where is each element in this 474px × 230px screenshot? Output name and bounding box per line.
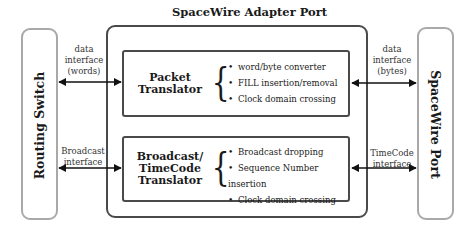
connection-arrows: [0, 0, 474, 230]
